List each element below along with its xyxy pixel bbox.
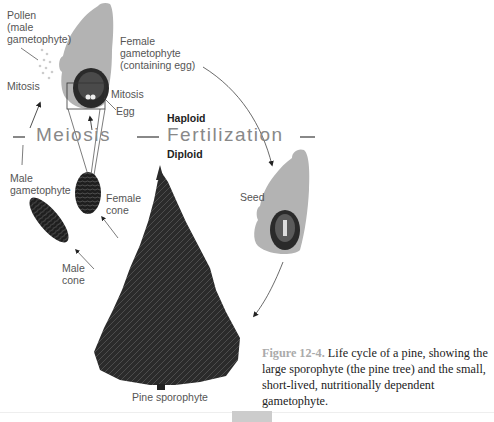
female-cone-illustration (75, 172, 101, 214)
male-cone-label: Male cone (62, 262, 85, 286)
female-cone-label: Female cone (106, 192, 141, 216)
male-gametophyte-label: Male gametophyte (10, 172, 71, 196)
haploid-label: Haploid (167, 112, 206, 124)
pine-life-cycle-figure: Pollen (male gametophyte) Female gametop… (0, 0, 494, 422)
mitosis-right-label: Mitosis (111, 88, 144, 100)
meiosis-label: Meiosis (36, 124, 111, 146)
divider-dash (13, 136, 25, 138)
figure-caption: Figure 12-4. Life cycle of a pine, showi… (262, 345, 494, 409)
figure-number: Figure 12-4. (262, 346, 325, 360)
page-scroll-tab (232, 411, 272, 422)
pollen-grains (39, 49, 54, 80)
mitosis-left-label: Mitosis (7, 80, 40, 92)
female-gametophyte-label: Female gametophyte (containing egg) (120, 35, 195, 71)
pollen-label: Pollen (male gametophyte) (7, 9, 71, 45)
divider-dash (137, 136, 159, 138)
pine-sporophyte-label: Pine sporophyte (132, 391, 208, 403)
fertilization-label: Fertilization (167, 124, 284, 146)
diploid-label: Diploid (167, 148, 203, 160)
egg-label: Egg (116, 105, 135, 117)
male-cone-illustration (23, 192, 74, 248)
divider-dash (300, 136, 315, 138)
seed-label: Seed (240, 191, 265, 203)
